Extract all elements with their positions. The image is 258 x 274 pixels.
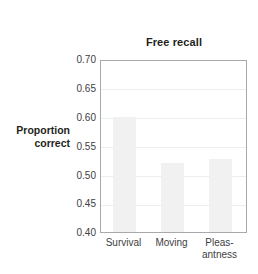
x-tick-label-moving: Moving <box>144 237 199 249</box>
bar-moving[interactable] <box>161 163 184 232</box>
x-axis-tick-labels: Survival Moving Pleas- antness <box>100 237 247 271</box>
y-tick-label: 0.70 <box>62 55 96 65</box>
plot-area <box>100 60 247 233</box>
y-axis-tick-labels: 0.70 0.65 0.60 0.55 0.50 0.45 0.40 <box>60 60 96 233</box>
y-tick-label: 0.55 <box>62 142 96 152</box>
x-tick-label-line: Pleas- <box>192 237 247 249</box>
y-tick-label: 0.40 <box>62 228 96 238</box>
x-tick-label-line: antness <box>192 249 247 261</box>
y-tick-label: 0.50 <box>62 171 96 181</box>
y-tick-label: 0.65 <box>62 84 96 94</box>
x-tick-label-line: Survival <box>96 237 151 249</box>
x-tick-label-line: Moving <box>144 237 199 249</box>
x-tick-label-pleasantness: Pleas- antness <box>192 237 247 261</box>
bar-survival[interactable] <box>113 117 136 232</box>
y-tick-label: 0.60 <box>62 113 96 123</box>
bar-chart-figure: Free recall Proportion correct 0.70 0.65… <box>0 0 258 274</box>
gridline <box>101 89 246 90</box>
x-tick-label-survival: Survival <box>96 237 151 249</box>
y-tick-label: 0.45 <box>62 199 96 209</box>
bar-pleasantness[interactable] <box>209 159 232 232</box>
chart-title: Free recall <box>100 36 248 49</box>
